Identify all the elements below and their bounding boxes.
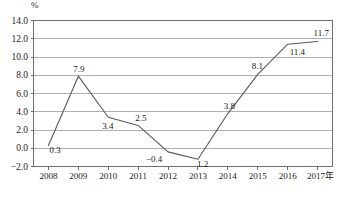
y-axis-tick-label: 8.0	[0, 70, 28, 80]
data-point-label: 7.9	[73, 64, 84, 74]
y-axis-tick-label: −2.0	[0, 162, 28, 172]
x-axis-tick-label: 2008	[31, 171, 65, 181]
x-axis-tick-label: 2009	[61, 171, 95, 181]
data-point-label: 11.7	[314, 28, 329, 38]
y-axis-unit-label: %	[31, 0, 39, 10]
x-axis-tick-label: 2013	[181, 171, 215, 181]
y-axis-tick-label: 10.0	[0, 52, 28, 62]
y-axis-tick-label: 6.0	[0, 89, 28, 99]
y-axis-tick-label: 2.0	[0, 125, 28, 135]
y-axis-tick-label: 0.0	[0, 143, 28, 153]
data-point-label: 2.5	[135, 113, 146, 123]
data-point-label: −0.4	[146, 154, 162, 164]
x-axis-tick-label: 2016	[271, 171, 305, 181]
gridlines-group	[34, 21, 333, 167]
x-axis-tick-label: 2014	[211, 171, 245, 181]
data-point-label: 3.8	[224, 101, 235, 111]
data-series-line	[48, 41, 317, 159]
x-axis-tick-label: 2010	[91, 171, 125, 181]
x-axis-tick-label: 2015	[241, 171, 275, 181]
y-axis-tick-label: 12.0	[0, 34, 28, 44]
data-point-label: 1.2	[197, 159, 208, 169]
x-axis-tick-label: 2012	[151, 171, 185, 181]
data-point-label: 3.4	[102, 121, 113, 131]
x-axis-tick-label: 2011	[121, 171, 155, 181]
data-point-label: 0.3	[49, 145, 60, 155]
y-axis-tick-label: 4.0	[0, 107, 28, 117]
x-axis-tick-label: 2017年	[304, 171, 338, 181]
data-point-label: 11.4	[290, 47, 305, 57]
figure-container: % 14.012.010.08.06.04.02.00.0−2.0 200820…	[0, 0, 349, 205]
data-point-label: 8.1	[252, 61, 263, 71]
y-axis-tick-label: 14.0	[0, 16, 28, 26]
